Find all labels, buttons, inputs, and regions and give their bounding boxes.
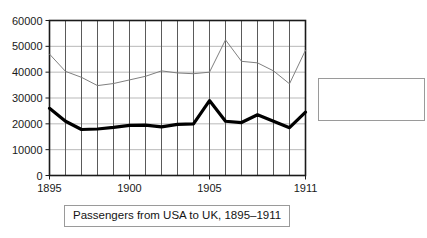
- chart-caption: Passengers from USA to UK, 1895–1911: [64, 205, 290, 227]
- y-axis-tick-label: 20000: [12, 118, 43, 130]
- y-axis-tick-label: 50000: [12, 40, 43, 52]
- legend-box: [318, 78, 425, 121]
- y-axis-tick-labels: 0100002000030000400005000060000: [12, 15, 43, 182]
- y-axis-tick-label: 0: [36, 170, 42, 182]
- y-axis-tick-label: 60000: [12, 15, 43, 27]
- x-axis-tick-label: 1911: [294, 182, 318, 194]
- x-axis-tick-label: 1905: [197, 182, 221, 194]
- y-axis-tick-label: 10000: [12, 144, 43, 156]
- x-axis-tick-label: 1900: [117, 182, 141, 194]
- y-axis-tick-label: 40000: [12, 66, 43, 78]
- chart-screenshot: 0100002000030000400005000060000 18951900…: [0, 0, 427, 238]
- x-axis-tick-labels: 1895190019051911: [37, 182, 317, 194]
- y-axis-tick-label: 30000: [12, 92, 43, 104]
- x-axis-tick-label: 1895: [37, 182, 61, 194]
